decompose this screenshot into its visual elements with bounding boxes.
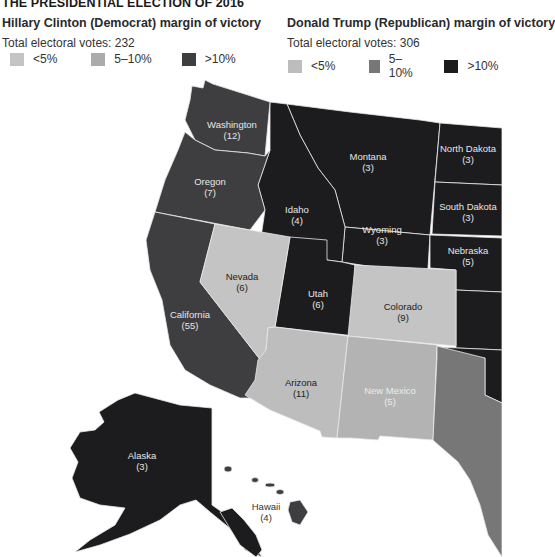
label-washington: Washington <box>207 119 257 130</box>
state-kansas[interactable] <box>456 290 502 350</box>
label-utah: Utah <box>308 288 328 299</box>
label-montana: Montana <box>350 151 388 162</box>
label-nebraska: Nebraska <box>448 245 489 256</box>
label-idaho: Idaho <box>285 204 309 215</box>
label-arizona: Arizona <box>285 377 318 388</box>
label-south-dakota: South Dakota <box>439 201 497 212</box>
label-california: California <box>170 309 211 320</box>
label-nevada: Nevada <box>226 271 259 282</box>
label-hawaii: Hawaii <box>252 501 281 512</box>
svg-text:Hawaii(4): Hawaii(4) <box>252 501 281 523</box>
label-new-mexico: New Mexico <box>364 385 416 396</box>
label-north-dakota: North Dakota <box>440 143 497 154</box>
alaska-panhandle <box>220 508 262 557</box>
label-oregon: Oregon <box>194 176 226 187</box>
label-colorado: Colorado <box>384 301 423 312</box>
label-alaska: Alaska <box>128 450 157 461</box>
label-wyoming: Wyoming <box>362 224 402 235</box>
